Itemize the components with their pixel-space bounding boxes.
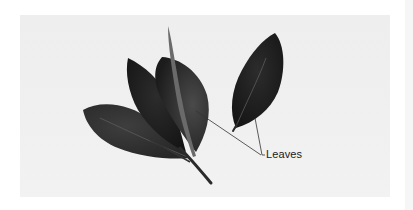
leaf-right: [232, 33, 283, 131]
leaves-illustration: [0, 0, 413, 210]
leaves-label: Leaves: [266, 148, 302, 160]
